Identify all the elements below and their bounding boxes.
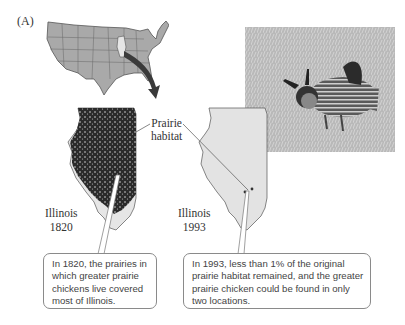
illinois-1820-year: 1820 bbox=[45, 220, 78, 234]
illinois-1820-name: Illinois bbox=[45, 206, 78, 220]
illinois-1993-name: Illinois bbox=[178, 206, 211, 220]
callout-1993: In 1993, less than 1% of the original pr… bbox=[183, 253, 371, 309]
illinois-1820-label: Illinois 1820 bbox=[45, 206, 78, 234]
illinois-1993-year: 1993 bbox=[178, 220, 211, 234]
prairie-habitat-line2: habitat bbox=[151, 130, 182, 143]
prairie-habitat-line1: Prairie bbox=[151, 117, 182, 130]
callout-1820: In 1820, the prairies in which greater p… bbox=[43, 253, 157, 309]
illinois-1993-label: Illinois 1993 bbox=[178, 206, 211, 234]
prairie-habitat-label: Prairie habitat bbox=[151, 117, 182, 143]
